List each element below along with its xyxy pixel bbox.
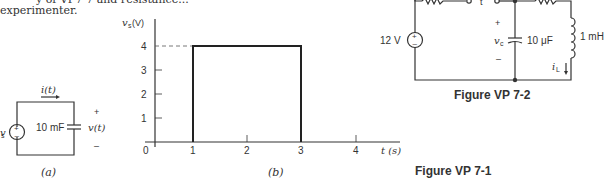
il-label: i (552, 61, 555, 72)
y-axis-label-unit: (V) (132, 18, 144, 28)
page-canvas: y of VF7-7 and resistance... experimente… (0, 0, 604, 180)
vc-sub: c (500, 40, 504, 47)
capacitor-value-label: 10 μF (527, 35, 553, 46)
figure-a-caption: (a) (41, 166, 56, 179)
y-tick-2: 2 (141, 89, 147, 100)
voltage-plus: + (94, 107, 99, 117)
junction-dot-top (513, 0, 517, 3)
figure-b-caption: (b) (268, 166, 284, 179)
resistor-2-icon (515, 0, 571, 18)
resistor-icon (422, 0, 466, 4)
dc-source-minus: – (413, 39, 418, 48)
inductor-value-label: 1 mH (580, 31, 604, 42)
pulse-waveform (193, 46, 301, 142)
capacitor-label: 10 mF (36, 122, 64, 133)
junction-dot-bottom (513, 78, 517, 82)
x-tick-4: 4 (353, 145, 359, 156)
source-minus: – (15, 131, 20, 140)
y-tick-4: 4 (141, 41, 147, 52)
x-tick-2: 2 (244, 145, 250, 156)
y-tick-1: 1 (141, 113, 147, 124)
inductor-icon (571, 18, 575, 58)
vc-plus: + (495, 18, 500, 28)
voltage-minus: – (94, 141, 99, 151)
switch-contact-icon (467, 0, 471, 3)
figure-vp71-caption: Figure VP 7-1 (415, 164, 492, 178)
switch-label: t (480, 0, 483, 7)
x-tick-3: 3 (298, 145, 304, 156)
voltage-label: v(t) (88, 122, 106, 133)
source-sub: s (1, 132, 5, 139)
body-text-line2: experimenter. (0, 4, 78, 17)
x-tick-0: 0 (143, 145, 149, 156)
y-tick-3: 3 (141, 65, 147, 76)
x-axis-label: t (s) (381, 145, 401, 156)
figure-b-chart (145, 19, 400, 147)
figure-vp72-caption: Figure VP 7-2 (454, 88, 531, 102)
current-label: i(t) (41, 84, 56, 95)
x-tick-1: 1 (190, 145, 196, 156)
il-sub: L (556, 66, 560, 73)
vc-minus: – (496, 54, 501, 64)
dc-source-label: 12 V (380, 35, 401, 46)
